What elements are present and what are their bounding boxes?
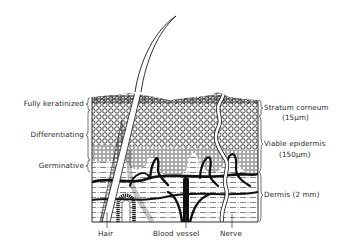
label-viable-epidermis-thickness: (150μm) (279, 151, 311, 159)
label-hair: Hair (98, 230, 113, 238)
label-viable-epidermis: Viable epidermis (264, 140, 326, 148)
label-dermis: Dermis (2 mm) (264, 191, 320, 199)
label-fully-keratinized: Fully keratinized (24, 100, 84, 108)
label-differentiating: Differentiating (31, 131, 84, 139)
label-germinative: Germinative (39, 162, 84, 170)
skin-diagram: Fully keratinized Differentiating Germin… (0, 0, 345, 252)
right-braces (259, 100, 263, 222)
label-stratum-corneum-thickness: (15μm) (282, 114, 309, 122)
skin-cross-section-illustration (0, 0, 345, 252)
left-braces (86, 98, 90, 172)
label-stratum-corneum: Stratum corneum (264, 104, 329, 112)
label-nerve: Nerve (220, 230, 242, 238)
label-blood-vessel: Blood vessel (153, 230, 199, 238)
